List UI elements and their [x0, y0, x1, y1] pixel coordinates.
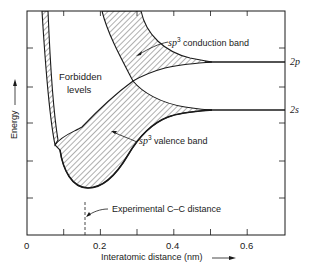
band-diagram: [0, 0, 309, 268]
valence-band-suffix: valence band: [152, 136, 208, 146]
top-ticks: [64, 11, 248, 16]
conduction-band-prefix: sp: [168, 37, 177, 48]
level-2p-label: 2p: [290, 57, 300, 67]
left-ticks: [27, 48, 33, 198]
level-2s-label: 2s: [290, 105, 299, 115]
x-tick-0-4: 0.4: [166, 241, 179, 251]
forbidden-levels-label-line2: levels: [67, 85, 91, 95]
bottom-ticks: [64, 229, 248, 235]
x-tick-0-2: 0.2: [93, 241, 106, 251]
conduction-band-suffix: conduction band: [181, 38, 250, 48]
valence-band-label: sp3 valence band: [139, 135, 208, 146]
experimental-distance-label: Experimental C–C distance: [112, 205, 221, 214]
left-steep-band: [42, 11, 58, 145]
x-tick-0-6: 0.6: [240, 241, 253, 251]
experimental-arrowhead: [86, 212, 91, 217]
x-axis-arrow: [212, 256, 236, 260]
x-axis-label: Interatomic distance (nm): [101, 253, 203, 262]
y-axis-arrow: [13, 79, 17, 105]
valence-band-prefix: sp: [139, 135, 148, 146]
right-ticks: [279, 48, 285, 198]
forbidden-levels-label-line1: Forbidden: [59, 72, 102, 82]
x-tick-0: 0: [24, 241, 29, 251]
conduction-band-label: sp3 conduction band: [168, 37, 249, 48]
y-axis-label: Energy: [9, 110, 19, 139]
